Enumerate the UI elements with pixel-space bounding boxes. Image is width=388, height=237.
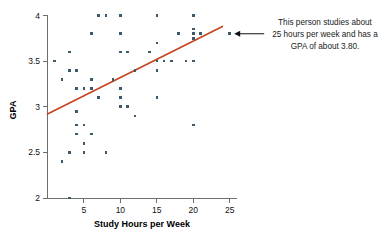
data-point bbox=[75, 133, 78, 136]
data-point bbox=[105, 151, 108, 154]
y-axis-ticks: 22.533.54 bbox=[28, 11, 47, 204]
scatter-plot-figure: 22.533.54 510152025 GPA Study Hours per … bbox=[0, 0, 388, 237]
y-tick-label: 3.5 bbox=[28, 56, 40, 66]
x-axis-ticks: 510152025 bbox=[82, 199, 235, 216]
x-tick-label: 25 bbox=[225, 205, 235, 215]
data-point bbox=[156, 96, 159, 99]
data-point bbox=[97, 14, 100, 17]
data-point bbox=[148, 51, 151, 54]
data-point bbox=[90, 87, 93, 90]
x-tick-label: 10 bbox=[116, 205, 126, 215]
data-point bbox=[156, 60, 159, 63]
data-point bbox=[134, 69, 137, 72]
data-point bbox=[68, 197, 71, 200]
data-point bbox=[119, 32, 122, 35]
data-point bbox=[119, 51, 122, 54]
data-point bbox=[185, 60, 188, 63]
data-point bbox=[156, 42, 159, 45]
y-tick-label: 4 bbox=[35, 11, 40, 21]
data-point bbox=[134, 115, 137, 118]
data-points bbox=[53, 14, 231, 199]
data-point bbox=[90, 133, 93, 136]
x-axis-title: Study Hours per Week bbox=[94, 219, 191, 229]
data-point bbox=[83, 87, 86, 90]
data-point bbox=[112, 78, 115, 81]
data-point bbox=[105, 14, 108, 17]
data-point bbox=[68, 69, 71, 72]
data-point bbox=[156, 69, 159, 72]
data-point bbox=[199, 32, 202, 35]
data-point bbox=[68, 51, 71, 54]
y-axis-title: GPA bbox=[8, 100, 18, 119]
data-point bbox=[90, 78, 93, 81]
y-tick-label: 3 bbox=[35, 102, 40, 112]
callout-annotation: This person studies about 25 hours per w… bbox=[234, 18, 378, 51]
data-point bbox=[90, 32, 93, 35]
data-point bbox=[53, 60, 56, 63]
data-point bbox=[75, 124, 78, 127]
data-point bbox=[192, 14, 195, 17]
data-point bbox=[61, 160, 64, 163]
x-tick-label: 5 bbox=[82, 205, 87, 215]
data-point bbox=[192, 28, 195, 31]
data-point bbox=[119, 105, 122, 108]
data-point bbox=[75, 69, 78, 72]
data-point bbox=[75, 110, 78, 113]
annotation-line-1: This person studies about bbox=[278, 18, 372, 27]
data-point bbox=[61, 78, 64, 81]
data-point bbox=[75, 87, 78, 90]
data-point bbox=[83, 151, 86, 154]
data-point bbox=[192, 37, 195, 40]
data-point bbox=[83, 124, 86, 127]
data-point bbox=[228, 32, 231, 35]
data-point bbox=[126, 105, 129, 108]
data-point bbox=[119, 14, 122, 17]
data-point bbox=[177, 32, 180, 35]
data-point bbox=[156, 14, 159, 17]
annotation-line-2: 25 hours per week and has a bbox=[272, 30, 378, 39]
data-point bbox=[83, 142, 86, 145]
data-point bbox=[126, 51, 129, 54]
x-tick-label: 20 bbox=[189, 205, 199, 215]
data-point bbox=[192, 32, 195, 35]
data-point bbox=[68, 151, 71, 154]
data-point bbox=[119, 87, 122, 90]
chart-canvas: 22.533.54 510152025 GPA Study Hours per … bbox=[0, 0, 388, 237]
y-tick-label: 2 bbox=[35, 193, 40, 203]
data-point bbox=[97, 96, 100, 99]
x-tick-label: 15 bbox=[152, 205, 162, 215]
data-point bbox=[119, 96, 122, 99]
annotation-line-3: GPA of about 3.80. bbox=[291, 42, 360, 51]
chart-axes bbox=[48, 15, 238, 199]
data-point bbox=[192, 124, 195, 127]
y-tick-label: 2.5 bbox=[28, 147, 40, 157]
data-point bbox=[170, 60, 173, 63]
arrow-head-icon bbox=[234, 31, 240, 37]
data-point bbox=[163, 60, 166, 63]
data-point bbox=[192, 60, 195, 63]
